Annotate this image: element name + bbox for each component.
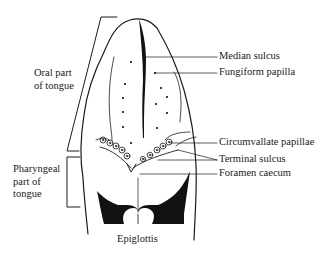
label-epiglottis: Epiglottis	[117, 233, 158, 246]
label-terminal-sulcus: Terminal sulcus	[219, 153, 286, 166]
lateral-fold-right	[174, 72, 181, 122]
label-fungiform-papilla: Fungiform papilla	[219, 66, 295, 79]
label-circumvallate-papillae: Circumvallate papillae	[219, 136, 314, 149]
label-line: tongue	[13, 188, 60, 201]
label-line: part of	[13, 176, 60, 189]
label-line: Pharyngeal	[13, 163, 60, 176]
label-pharyngeal-part: Pharyngeal part of tongue	[13, 163, 60, 201]
label-line: Oral part	[34, 67, 74, 80]
label-oral-part: Oral part of tongue	[34, 67, 74, 92]
label-foramen-caecum: Foramen caecum	[219, 167, 291, 180]
lateral-fold-left	[109, 57, 114, 140]
label-line: of tongue	[34, 80, 74, 93]
pharyngeal-part-bracket	[67, 157, 80, 207]
label-median-sulcus: Median sulcus	[219, 50, 280, 63]
oral-part-bracket	[67, 17, 117, 151]
median-sulcus	[139, 19, 146, 138]
tongue-diagram	[0, 0, 328, 261]
circumvallate-papillae	[96, 132, 196, 162]
terminal-sulcus	[100, 147, 178, 168]
